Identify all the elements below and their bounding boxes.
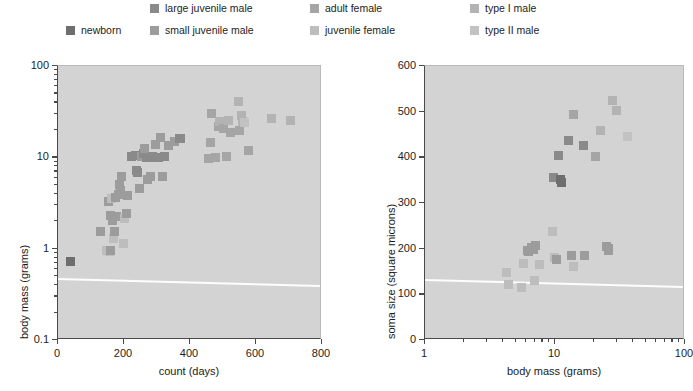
y-axis-title: soma size (square microns) [385,204,397,339]
y-axis-tick-label: 600 [380,59,416,71]
figure-root: large juvenile maleadult femaletype I ma… [0,0,693,391]
x-axis-tick-label: 10 [548,347,560,359]
y-axis-tick [419,202,424,203]
x-axis-tick [424,339,425,344]
scatter-point [504,280,513,289]
scatter-point [604,244,613,253]
scatter-point [535,260,544,269]
scatter-point [502,268,511,277]
x-axis-minor-tick [678,339,679,342]
scatter-point [569,110,578,119]
y-axis-tick [419,111,424,112]
y-axis-tick [419,293,424,294]
scatter-point [623,132,632,141]
scatter-point [567,251,576,260]
x-axis-minor-tick [593,339,594,342]
y-axis-tick [419,65,424,66]
x-axis-minor-tick [645,339,646,342]
scatter-point [519,259,528,268]
x-axis-minor-tick [515,339,516,342]
y-axis-tick [419,156,424,157]
scatter-point [608,96,617,105]
scatter-point [612,106,621,115]
x-axis-minor-tick [502,339,503,342]
x-axis-tick [684,339,685,344]
x-axis-minor-tick [534,339,535,342]
plot-area-right [424,65,684,339]
x-axis-minor-tick [655,339,656,342]
x-axis-minor-tick [486,339,487,342]
y-axis-tick [419,248,424,249]
x-axis-minor-tick [632,339,633,342]
x-axis-minor-tick [525,339,526,342]
scatter-point [530,276,539,285]
x-axis-tick-label: 1 [421,347,427,359]
x-axis-title: body mass (grams) [507,365,601,377]
x-axis-minor-tick [664,339,665,342]
x-axis-tick [554,339,555,344]
y-axis-tick-label: 500 [380,105,416,117]
scatter-point [591,152,600,161]
scatter-point [531,241,540,250]
scan-artifact-line [425,279,683,288]
scatter-point [596,126,605,135]
x-axis-minor-tick [463,339,464,342]
chart-panel-right: 0100200300400500600110100body mass (gram… [0,0,693,391]
scatter-point [580,251,589,260]
scatter-point [548,227,557,236]
x-axis-tick-label: 100 [675,347,693,359]
scatter-point [569,262,578,271]
x-axis-minor-tick [548,339,549,342]
scatter-point [517,283,526,292]
scatter-point [564,136,573,145]
x-axis-minor-tick [616,339,617,342]
scatter-point [579,141,588,150]
x-axis-minor-tick [541,339,542,342]
scatter-point [552,255,561,264]
scatter-point [557,178,566,187]
x-axis-minor-tick [671,339,672,342]
scatter-point [554,151,563,160]
y-axis-tick-label: 400 [380,150,416,162]
